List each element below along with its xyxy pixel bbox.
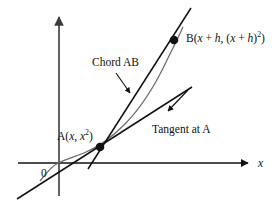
chord-annotation-label: Chord AB — [92, 57, 139, 69]
point-b-sep: , ( — [221, 32, 231, 44]
point-b-label: B(x + h, (x + h)2) — [186, 31, 265, 44]
point-b-plus2: + — [235, 32, 247, 44]
point-b-plus: + — [203, 32, 215, 44]
point-a-marker — [96, 143, 105, 152]
tangent-at-a-line — [17, 87, 192, 199]
point-b-suffix: ) — [261, 32, 265, 44]
calculus-diagram: B(x + h, (x + h)2) A(x, x2) Chord AB Tan… — [0, 0, 275, 204]
tangent-annotation-label: Tangent at A — [152, 124, 211, 136]
chord-annotation-arrow — [116, 73, 130, 93]
point-b-marker — [170, 36, 179, 45]
origin-label: 0 — [41, 168, 47, 180]
point-a-label: A(x, x2) — [57, 129, 93, 142]
x-axis-label: x — [258, 158, 263, 170]
point-a-suffix: ) — [89, 130, 93, 142]
parabola-curve — [40, 27, 183, 181]
